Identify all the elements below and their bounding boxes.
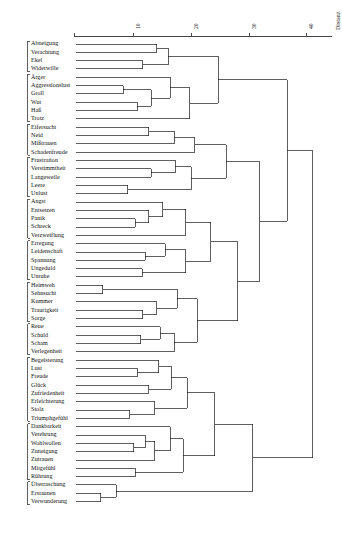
leaf-label: Begeisterung xyxy=(31,357,63,363)
leaf-label: Dankbarkeit xyxy=(31,423,61,429)
leaf-label: Verachtung xyxy=(31,49,59,55)
leaf-label: Ärger xyxy=(31,74,45,80)
leaf-label: Kummer xyxy=(31,298,53,304)
leaf-label: Schadenfreude xyxy=(31,149,67,155)
leaf-label: Mitgefühl xyxy=(31,465,56,471)
leaf-label: Wohlwollen xyxy=(31,440,61,446)
leaf-label: Schuld xyxy=(31,332,48,338)
leaf-label: Schreck xyxy=(31,223,51,229)
axis-tick-label: 30 xyxy=(252,23,258,29)
leaf-label: Verwunderung xyxy=(31,498,67,504)
leaf-label: Ungeduld xyxy=(31,265,55,271)
leaf-label: Leere xyxy=(31,182,45,188)
leaf-label: Rührung xyxy=(31,473,52,479)
leaf-label: Erleichterung xyxy=(31,398,64,404)
leaf-label: Sorge xyxy=(31,315,45,321)
leaf-label: Entsetzen xyxy=(31,207,55,213)
leaf-label: Traurigkeit xyxy=(31,307,58,313)
leaf-label: Erstaunen xyxy=(31,490,56,496)
leaf-label: Freude xyxy=(31,373,48,379)
leaf-label: Abneigung xyxy=(31,40,58,46)
axis-title: Distanz xyxy=(335,12,341,30)
leaf-label: Angst xyxy=(31,198,46,204)
leaf-label: Haß xyxy=(31,107,41,113)
leaf-label: Scham xyxy=(31,340,48,346)
leaf-label: Erregung xyxy=(31,240,54,246)
axis-tick-label: 20 xyxy=(194,23,200,29)
leaf-label: Lust xyxy=(31,365,42,371)
leaf-label: Panik xyxy=(31,215,45,221)
leaf-label: Triumphgefühl xyxy=(31,415,68,421)
leaf-label: Zuneigung xyxy=(31,448,58,454)
dendrogram-figure: AbneigungVerachtungEkelWiderwilleÄrgerAg… xyxy=(0,0,342,534)
leaf-label: Widerwille xyxy=(31,65,58,71)
leaf-label: Ekel xyxy=(31,57,42,63)
axis-tick-label: 40 xyxy=(309,23,315,29)
leaf-label: Eifersucht xyxy=(31,124,56,130)
axis-tick-label: 10 xyxy=(136,23,142,29)
leaf-label: Leidenschaft xyxy=(31,248,63,254)
leaf-label: Sehnsucht xyxy=(31,290,56,296)
leaf-label: Verstimmtheit xyxy=(31,165,66,171)
leaf-label: Wut xyxy=(31,99,41,105)
leaf-label: Mißtrauen xyxy=(31,140,57,146)
leaf-label: Spannung xyxy=(31,257,56,263)
leaf-label: Glück xyxy=(31,382,46,388)
dendrogram-page: AbneigungVerachtungEkelWiderwilleÄrgerAg… xyxy=(0,0,342,534)
leaf-label: Unlust xyxy=(31,190,47,196)
leaf-label: Zutrauen xyxy=(31,456,53,462)
leaf-label: Unruhe xyxy=(31,273,49,279)
leaf-label: Neid xyxy=(31,132,43,138)
leaf-label: Groll xyxy=(31,90,44,96)
leaf-label: Stolz xyxy=(31,406,44,412)
leaf-label: Verehrung xyxy=(31,431,57,437)
leaf-label: Verzweiflung xyxy=(31,232,64,238)
leaf-label: Aggressionslust xyxy=(31,82,70,88)
leaf-label: Reue xyxy=(31,323,44,329)
leaf-label: Verlegenheit xyxy=(31,348,62,354)
leaf-label: Heimweh xyxy=(31,282,55,288)
leaf-label: Zufriedenheit xyxy=(31,390,64,396)
leaf-label: Frustration xyxy=(31,157,58,163)
leaf-label: Langeweile xyxy=(31,174,60,180)
leaf-label: Trotz xyxy=(31,115,44,121)
leaf-label: Überraschung xyxy=(31,481,65,487)
